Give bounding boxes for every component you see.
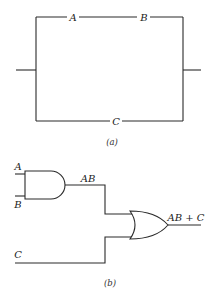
- switch-b-label: B: [139, 12, 147, 23]
- and-output-wire: [65, 185, 133, 214]
- figure-a-switching-circuit: A B C (a): [16, 10, 201, 147]
- figure-b-caption: (b): [104, 278, 116, 288]
- input-b-label: B: [13, 199, 21, 210]
- circuit-figure: A B C (a) A B AB C AB + C (b): [0, 0, 211, 294]
- switch-a-label: A: [68, 12, 76, 23]
- input-c-label: C: [14, 249, 22, 260]
- and-output-label: AB: [80, 173, 96, 184]
- and-gate-icon: [25, 171, 65, 199]
- figure-b-logic-circuit: A B AB C AB + C (b): [13, 161, 205, 288]
- input-c-wire: [15, 237, 133, 263]
- or-output-label: AB + C: [167, 212, 205, 223]
- switch-c-label: C: [112, 116, 120, 127]
- or-gate-icon: [130, 211, 168, 239]
- input-a-label: A: [13, 161, 21, 172]
- figure-a-caption: (a): [106, 137, 118, 147]
